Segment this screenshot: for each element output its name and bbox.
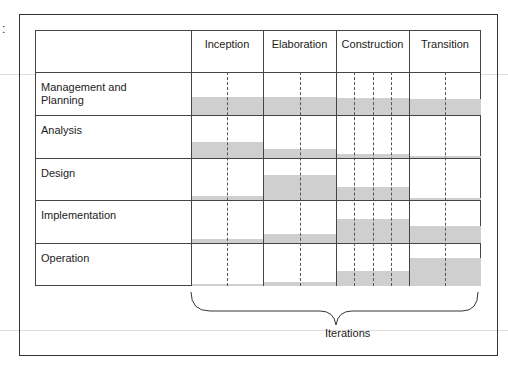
iterations-brace-icon (0, 0, 508, 369)
